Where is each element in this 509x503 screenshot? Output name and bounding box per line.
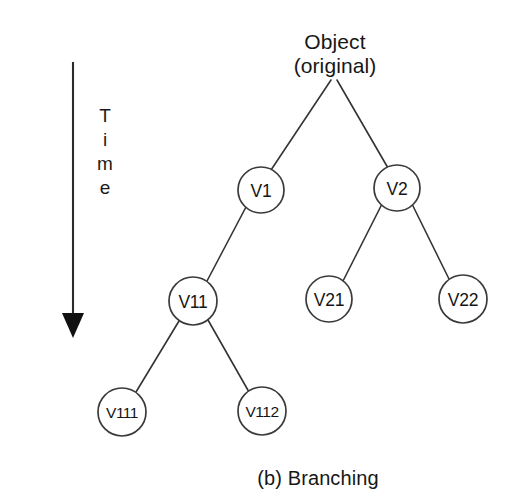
time-letter-m: m [97,152,113,176]
time-axis-label: T i m e [97,104,113,200]
edge-v11-v112 [208,320,249,392]
root-label-line-2: (original) [294,54,377,78]
node-label-v1: V1 [250,181,271,201]
figure-svg-layer [0,0,509,503]
root-node-label: Object (original) [294,30,377,78]
edge-v11-v111 [136,321,179,392]
time-letter-t: T [97,104,113,128]
edge-v1-v11 [207,207,246,281]
down-arrow-icon [62,313,84,338]
node-label-v22: V22 [448,290,479,310]
edge-root-v2 [337,80,388,168]
tree-node-circles [98,165,487,436]
node-label-v112: V112 [245,403,278,421]
node-label-v11: V11 [178,292,207,312]
node-label-v111: V111 [106,404,138,422]
edge-root-v1 [271,80,331,170]
edge-v2-v21 [343,204,382,281]
time-letter-e: e [97,176,113,200]
figure-caption: (b) Branching [257,467,378,490]
time-letter-i: i [97,128,113,152]
node-label-v2: V2 [386,179,407,199]
node-label-v21: V21 [314,290,345,310]
tree-edges [136,80,450,392]
branching-version-tree-figure: Object (original) V1 V2 V11 V21 V22 V111… [0,0,509,503]
time-axis [62,62,84,338]
edge-v2-v22 [412,204,450,281]
root-label-line-1: Object [294,30,377,54]
